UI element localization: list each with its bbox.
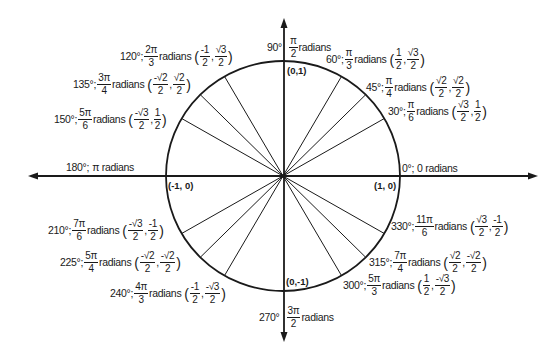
label-text: 330°; [391,221,414,232]
label-text: 2 [471,263,476,274]
fraction: 12 [423,274,430,297]
label-text: 1 [154,108,161,120]
label-text: √3 [407,48,419,60]
label-text: 225°; [60,257,83,268]
label-text: 4 [88,263,93,274]
label-text: 2 [424,286,429,297]
label-text: 3 [138,294,143,305]
fraction: √32 [457,100,469,123]
label-text: 3 [371,286,376,297]
label-text: radians [435,221,467,232]
label-180deg: 180°; π radians [66,162,134,173]
label-text: 315°; [369,257,392,268]
label-text: π radians [92,162,134,173]
label-text: √2 [435,76,447,88]
fraction: -12 [148,219,158,242]
label-text: -√2 [160,251,175,263]
label-text: ) [482,105,486,119]
label-text: 2 [155,120,160,131]
label-text: √3 [457,100,469,112]
label-text: 300°; [343,280,366,291]
fraction: 12 [395,48,402,71]
label-text: 2 [440,286,445,297]
label-text: 2 [133,231,138,242]
label-text: -√2 [140,251,155,263]
fraction: -√22 [160,251,175,274]
label-text: 6 [422,227,427,238]
label-text: radians [301,312,333,323]
label-0deg: 0°; 0 radians [402,163,458,174]
point-top: (0,1) [287,66,307,76]
label-text: radians [87,225,119,236]
label-text: ) [451,279,455,293]
label-text: 2 [291,318,296,329]
fraction: 4π3 [134,282,148,305]
label-text: √2 [449,251,461,263]
label-text: 5π [367,274,381,286]
label-text: , [470,106,473,117]
fraction: -√22 [153,73,168,96]
label-text: 2 [165,263,170,274]
label-text: 4 [386,88,391,99]
label-text: , [211,51,214,62]
label-text: , [156,257,159,268]
label-text: 150°; [54,114,77,125]
label-text: ( [147,78,151,92]
fraction: -√32 [205,282,220,305]
label-150deg: 150°; 5π6 radians ( -√32 , 12 ) [54,108,166,131]
label-text: ) [465,81,469,95]
label-text: 5π [84,251,98,263]
label-225deg: 225°; 5π4 radians ( -√22 , -√22 ) [60,251,181,274]
label-text: radians [408,257,440,268]
label-text: radians [112,79,144,90]
label-text: -√3 [134,108,149,120]
fraction: √22 [452,76,464,99]
point-left: (-1, 0) [168,181,193,191]
fraction: -√32 [435,274,450,297]
fraction: √32 [407,48,419,71]
label-text: ( [122,224,126,238]
label-text: ( [390,53,394,67]
label-text: ) [159,224,163,238]
fraction: 7π4 [393,251,407,274]
label-text: , [150,114,153,125]
label-text: π [385,76,394,88]
label-text: 2 [452,263,457,274]
label-text: -√2 [466,251,481,263]
label-text: ( [470,220,474,234]
fraction: π6 [407,100,416,123]
fraction: -12 [492,215,502,238]
fraction: -√32 [134,108,149,131]
label-text: 5π [78,108,92,120]
fraction: 3π2 [287,306,301,329]
label-text: 1 [395,48,402,60]
label-text: 2 [218,57,223,68]
label-text: 0°; [402,163,414,174]
label-text: , [431,280,434,291]
label-text: , [489,221,492,232]
point-right: (1, 0) [374,181,396,191]
fraction: √32 [475,215,487,238]
fraction: -√22 [466,251,481,274]
label-text: 2 [456,88,461,99]
fraction: 5π4 [84,251,98,274]
origin-point [281,174,285,178]
label-text: , [169,79,172,90]
label-text: 7π [72,219,86,231]
label-text: 270° [259,312,280,323]
label-text: 6 [82,120,87,131]
label-text: -1 [148,219,158,231]
label-text: 2 [396,60,401,71]
label-text: radians [99,257,131,268]
label-text: radians [93,114,125,125]
label-text: 210°; [48,225,71,236]
fraction: 11π6 [415,215,433,238]
label-text: 4 [101,85,106,96]
label-text: 1 [474,100,481,112]
label-text: 7π [393,251,407,263]
label-text: , [201,288,204,299]
label-text: radians [149,288,181,299]
label-text: 135°; [73,79,96,90]
label-text: π [289,36,298,48]
fraction: π3 [345,48,354,71]
